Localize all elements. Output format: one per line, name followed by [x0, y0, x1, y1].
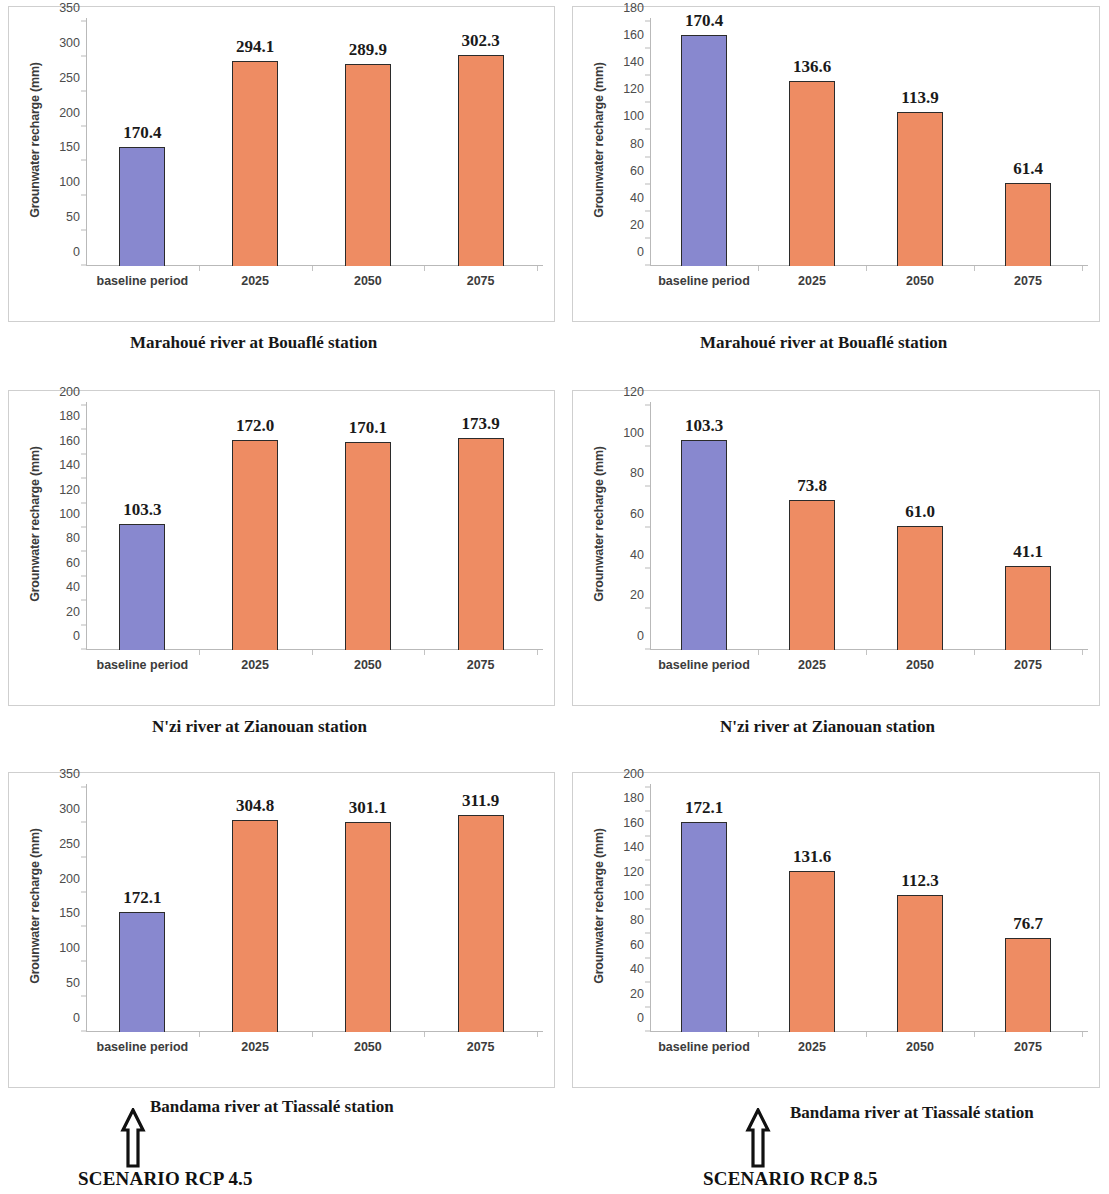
bar-slot: 172.1 [650, 788, 758, 1032]
bar-value-label: 294.1 [236, 37, 274, 57]
y-tick-label: 80 [630, 466, 644, 480]
x-tick-label: 2050 [866, 274, 974, 294]
y-tick-label: 20 [66, 605, 80, 619]
y-tick-label: 300 [59, 802, 80, 816]
bar-slot: 294.1 [199, 22, 312, 266]
bar-2075[interactable]: 302.3 [458, 55, 504, 266]
y-tick-label: 20 [630, 588, 644, 602]
x-tick-label: 2075 [974, 1040, 1082, 1060]
x-tick-label: 2025 [199, 1040, 312, 1060]
bar-slot: 170.1 [312, 406, 425, 650]
bar-value-label: 289.9 [349, 40, 387, 60]
y-axis-label-text: Grounwater recharge (mm) [592, 828, 606, 984]
bar-slot: 61.4 [974, 22, 1082, 266]
bar-group: 170.4294.1289.9302.3 [86, 22, 537, 266]
y-tick-label: 50 [66, 210, 80, 224]
bar-value-label: 301.1 [349, 798, 387, 818]
bar-2050[interactable]: 301.1 [345, 822, 391, 1032]
x-tick-label: baseline period [650, 1040, 758, 1060]
bar-baseline-period[interactable]: 103.3 [681, 440, 727, 650]
bar-2075[interactable]: 61.4 [1005, 183, 1051, 266]
y-tick-label: 250 [59, 837, 80, 851]
x-tick-label: 2075 [974, 658, 1082, 678]
bar-2025[interactable]: 172.0 [232, 440, 278, 650]
bar-slot: 289.9 [312, 22, 425, 266]
bar-value-label: 103.3 [123, 500, 161, 520]
y-tick-label: 300 [59, 36, 80, 50]
bar-value-label: 304.8 [236, 796, 274, 816]
plot-area: 020406080100120140160180200103.3172.0170… [86, 406, 537, 650]
bar-value-label: 173.9 [462, 414, 500, 434]
y-tick-label: 0 [637, 1011, 644, 1025]
y-tick-label: 200 [59, 385, 80, 399]
bar-2025[interactable]: 294.1 [232, 61, 278, 266]
bar-2050[interactable]: 113.9 [897, 112, 943, 266]
figure-sheet: Grounwater recharge (mm) 050100150200250… [0, 0, 1109, 1194]
y-tick-label: 20 [630, 218, 644, 232]
bar-baseline-period[interactable]: 172.1 [119, 912, 165, 1032]
bar-value-label: 136.6 [793, 57, 831, 77]
y-axis-label: Grounwater recharge (mm) [24, 772, 46, 1040]
x-tick-labels: baseline period202520502075 [650, 1040, 1082, 1060]
y-tick-label: 200 [623, 767, 644, 781]
y-tick-label: 350 [59, 767, 80, 781]
bar-2050[interactable]: 112.3 [897, 895, 943, 1032]
y-tick-label: 150 [59, 906, 80, 920]
bar-value-label: 113.9 [901, 88, 938, 108]
y-tick-label: 0 [73, 245, 80, 259]
bar-2025[interactable]: 304.8 [232, 820, 278, 1032]
bar-2025[interactable]: 73.8 [789, 500, 835, 650]
bar-baseline-period[interactable]: 172.1 [681, 822, 727, 1032]
bar-slot: 103.3 [650, 406, 758, 650]
x-tick-label: 2025 [758, 1040, 866, 1060]
bar-slot: 131.6 [758, 788, 866, 1032]
y-tick-label: 40 [630, 548, 644, 562]
up-arrow-icon-right [745, 1108, 771, 1170]
bar-slot: 170.4 [86, 22, 199, 266]
y-tick-label: 140 [59, 458, 80, 472]
bar-value-label: 311.9 [462, 791, 499, 811]
bar-2075[interactable]: 76.7 [1005, 938, 1051, 1032]
chart-nzi-rcp45: Grounwater recharge (mm) 020406080100120… [8, 390, 555, 706]
y-tick-label: 60 [630, 938, 644, 952]
bar-baseline-period[interactable]: 103.3 [119, 524, 165, 650]
plot-area: 020406080100120140160180200172.1131.6112… [650, 788, 1082, 1032]
y-axis-label-text: Grounwater recharge (mm) [592, 446, 606, 602]
bar-2025[interactable]: 136.6 [789, 81, 835, 266]
y-tick-label: 180 [59, 409, 80, 423]
y-tick-label: 250 [59, 71, 80, 85]
x-tick-label: 2075 [424, 274, 537, 294]
bar-group: 103.3172.0170.1173.9 [86, 406, 537, 650]
plot-area: 050100150200250300350172.1304.8301.1311.… [86, 788, 537, 1032]
bar-2075[interactable]: 41.1 [1005, 566, 1051, 650]
bar-2075[interactable]: 173.9 [458, 438, 504, 650]
y-tick-label: 150 [59, 140, 80, 154]
y-axis-label-text: Grounwater recharge (mm) [28, 446, 42, 602]
bar-value-label: 61.4 [1013, 159, 1043, 179]
bar-value-label: 112.3 [901, 871, 938, 891]
scenario-label-right: SCENARIO RCP 8.5 [703, 1168, 878, 1190]
x-tick-label: baseline period [650, 658, 758, 678]
y-tick-label: 160 [59, 434, 80, 448]
bar-2050[interactable]: 289.9 [345, 64, 391, 266]
y-axis-label: Grounwater recharge (mm) [588, 390, 610, 658]
y-axis-label-text: Grounwater recharge (mm) [28, 62, 42, 218]
bar-baseline-period[interactable]: 170.4 [119, 147, 165, 266]
x-tick-label: 2025 [758, 274, 866, 294]
caption-nzi-rcp85: N'zi river at Zianouan station [720, 717, 935, 737]
bar-2025[interactable]: 131.6 [789, 871, 835, 1032]
bar-slot: 113.9 [866, 22, 974, 266]
bar-value-label: 170.1 [349, 418, 387, 438]
bar-slot: 173.9 [424, 406, 537, 650]
bar-baseline-period[interactable]: 170.4 [681, 35, 727, 266]
x-tick-label: 2025 [199, 658, 312, 678]
x-tick-labels: baseline period202520502075 [650, 658, 1082, 678]
bar-value-label: 172.1 [123, 888, 161, 908]
bar-2075[interactable]: 311.9 [458, 815, 504, 1032]
bar-2050[interactable]: 61.0 [897, 526, 943, 650]
y-tick-label: 50 [66, 976, 80, 990]
bar-2050[interactable]: 170.1 [345, 442, 391, 650]
y-tick-label: 0 [73, 1011, 80, 1025]
bar-value-label: 76.7 [1013, 914, 1043, 934]
caption-bandama-rcp85: Bandama river at Tiassalé station [790, 1103, 1034, 1123]
